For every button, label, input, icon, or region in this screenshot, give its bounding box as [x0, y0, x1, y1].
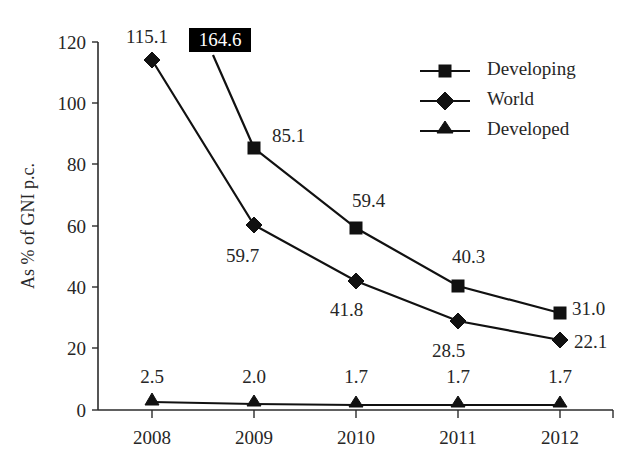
data-point-marker-diamond [450, 313, 466, 329]
x-tick-label: 2012 [541, 427, 579, 448]
legend-marker-triangle [437, 121, 453, 133]
x-tick-label: 2011 [439, 427, 476, 448]
legend-label-developing: Developing [487, 58, 576, 79]
data-point-marker-diamond [348, 273, 364, 289]
data-point-marker-triangle [451, 396, 465, 407]
data-label-developed-2010: 1.7 [344, 366, 368, 387]
data-point-marker-square [248, 142, 260, 154]
legend-label-world: World [487, 88, 535, 109]
legend-marker-square [439, 65, 451, 77]
data-point-marker-diamond [552, 332, 568, 348]
data-label-world-2011: 28.5 [432, 340, 465, 361]
data-label-world-2010: 41.8 [330, 299, 363, 320]
data-label-developed-2012: 1.7 [548, 366, 572, 387]
data-labels-developed: 2.5 2.0 1.7 1.7 1.7 [140, 366, 572, 387]
legend-item-developed[interactable]: Developed [420, 118, 570, 139]
y-tick-label: 80 [67, 154, 86, 175]
x-axis-tick-labels: 2008 2009 2010 2011 2012 [133, 427, 579, 448]
data-point-marker-diamond [246, 217, 262, 233]
data-label-world-2008: 115.1 [126, 26, 168, 47]
y-tick-label: 100 [58, 93, 87, 114]
y-tick-label: 0 [77, 400, 87, 421]
data-point-marker-square [554, 307, 566, 319]
legend-item-developing[interactable]: Developing [420, 58, 576, 79]
data-point-marker-square [452, 280, 464, 292]
data-point-marker-triangle [145, 393, 159, 405]
series-developed [145, 393, 567, 407]
data-point-marker-triangle [553, 396, 567, 407]
data-label-world-2009: 59.7 [226, 245, 259, 266]
x-tick-label: 2010 [337, 427, 375, 448]
y-tick-label: 120 [58, 32, 87, 53]
data-point-marker-diamond [144, 52, 160, 68]
chart-figure: 120 100 80 60 40 20 0 2008 2009 2010 201… [0, 0, 643, 472]
data-label-developed-2008: 2.5 [140, 366, 164, 387]
data-point-marker-triangle [349, 396, 363, 407]
y-tick-label: 40 [67, 277, 86, 298]
legend-item-world[interactable]: World [420, 88, 535, 110]
data-point-marker-square [350, 222, 362, 234]
line-chart: 120 100 80 60 40 20 0 2008 2009 2010 201… [0, 0, 643, 472]
y-axis-ticks [92, 42, 98, 410]
legend-marker-diamond [436, 92, 454, 110]
data-label-developed-2011: 1.7 [446, 366, 470, 387]
data-point-marker-triangle [247, 395, 261, 406]
data-label-developing-2008: 164.6 [199, 29, 242, 50]
data-label-developing-2011: 40.3 [452, 246, 485, 267]
data-label-world-2012: 22.1 [574, 331, 607, 352]
y-tick-label: 20 [67, 338, 86, 359]
data-label-developing-2012: 31.0 [572, 298, 605, 319]
data-label-developing-2010: 59.4 [352, 190, 386, 211]
x-tick-label: 2008 [133, 427, 171, 448]
legend-label-developed: Developed [487, 118, 570, 139]
x-tick-label: 2009 [235, 427, 273, 448]
y-tick-label: 60 [67, 216, 86, 237]
chart-legend: Developing World Developed [420, 58, 576, 139]
y-axis-tick-labels: 120 100 80 60 40 20 0 [58, 32, 87, 421]
data-label-developing-2009: 85.1 [272, 125, 305, 146]
y-axis-title: As % of GNI p.c. [18, 163, 38, 289]
data-label-developed-2009: 2.0 [242, 366, 266, 387]
x-axis-ticks [152, 410, 613, 418]
